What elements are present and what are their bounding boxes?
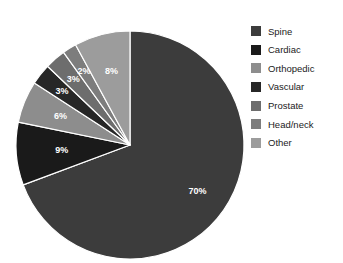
legend-swatch-icon	[251, 119, 261, 129]
legend-item-label: Orthopedic	[268, 64, 314, 74]
legend-swatch-icon	[251, 63, 261, 73]
pie-slice-label: 2%	[77, 66, 90, 76]
legend-item[interactable]: Spine	[251, 22, 343, 41]
legend-swatch-icon	[251, 138, 261, 148]
pie-chart-figure: 70%9%6%3%3%2%8% SpineCardiacOrthopedicVa…	[0, 0, 343, 263]
legend-item[interactable]: Cardiac	[251, 41, 343, 60]
legend-item-label: Vascular	[268, 82, 304, 92]
legend-item-label: Spine	[268, 27, 292, 37]
pie-slice-label: 6%	[54, 111, 67, 121]
legend-item[interactable]: Head/neck	[251, 115, 343, 134]
pie-plot-area: 70%9%6%3%3%2%8%	[0, 0, 250, 263]
legend-item[interactable]: Other	[251, 134, 343, 153]
pie-slice-label: 70%	[188, 186, 206, 196]
legend-swatch-icon	[251, 26, 261, 36]
legend-swatch-icon	[251, 82, 261, 92]
pie-slice-label: 8%	[105, 66, 118, 76]
pie-slice-label: 9%	[55, 145, 68, 155]
pie-slice-label: 3%	[55, 86, 68, 96]
legend-item-label: Prostate	[268, 101, 303, 111]
legend-item-label: Head/neck	[268, 120, 313, 130]
legend-item-label: Cardiac	[268, 45, 301, 55]
pie-slices-group	[16, 31, 244, 259]
legend-item-label: Other	[268, 138, 292, 148]
legend-swatch-icon	[251, 101, 261, 111]
legend-swatch-icon	[251, 45, 261, 55]
pie-svg: 70%9%6%3%3%2%8%	[0, 0, 250, 263]
legend-item[interactable]: Orthopedic	[251, 59, 343, 78]
legend-item[interactable]: Prostate	[251, 96, 343, 115]
legend-item[interactable]: Vascular	[251, 78, 343, 97]
legend: SpineCardiacOrthopedicVascularProstateHe…	[251, 22, 343, 152]
